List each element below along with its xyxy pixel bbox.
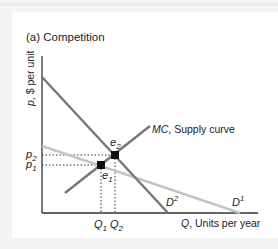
- demand-curve-d1: [42, 146, 240, 213]
- competition-diagram: (a) Competition p, $ per unit e2 e1: [0, 0, 278, 249]
- mc-label: MC, Supply curve: [152, 123, 235, 135]
- d1-label: D1: [232, 194, 244, 208]
- x-axis-label: Q, Units per year: [181, 217, 261, 229]
- figure-title: (a) Competition: [26, 31, 105, 43]
- demand-curve-d2: [42, 77, 168, 213]
- d2-label: D2: [166, 194, 179, 208]
- e2-label: e2: [110, 136, 121, 151]
- figure-frame: (a) Competition p, $ per unit e2 e1: [0, 0, 278, 249]
- equilibrium-point-e1: [97, 161, 105, 169]
- equilibrium-point-e2: [111, 151, 119, 159]
- y-axis-label: p, $ per unit: [24, 50, 36, 107]
- q1-label: Q1: [94, 218, 107, 233]
- q2-label: Q2: [110, 218, 124, 233]
- e1-label: e1: [102, 169, 113, 184]
